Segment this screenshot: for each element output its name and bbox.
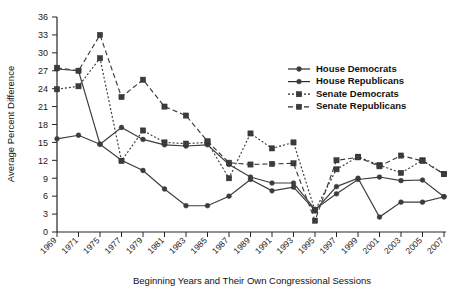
data-point (270, 188, 275, 193)
data-point (269, 161, 274, 166)
legend-label: Senate Republicans (316, 100, 406, 111)
data-point (54, 65, 59, 70)
data-point (162, 140, 167, 145)
chart-legend: House DemocratsHouse RepublicansSenate D… (288, 63, 406, 112)
x-tick-label: 1971 (59, 235, 80, 256)
data-point (183, 113, 188, 118)
data-point (54, 87, 59, 92)
data-point (420, 158, 425, 163)
data-point (141, 168, 146, 173)
data-point (420, 200, 425, 205)
data-point (334, 191, 339, 196)
y-tick-label: 30 (38, 48, 48, 58)
data-point (97, 32, 102, 37)
data-point (141, 137, 146, 142)
data-point (291, 161, 296, 166)
y-axis-title: Average Percent Difference (5, 66, 16, 182)
data-point (183, 141, 188, 146)
data-point (140, 128, 145, 133)
y-tick-label: 15 (38, 138, 48, 148)
data-point (162, 104, 167, 109)
data-point (399, 178, 404, 183)
x-tick-label: 2005 (403, 235, 424, 256)
legend-marker (296, 104, 301, 109)
data-point (184, 203, 189, 208)
data-point (205, 139, 210, 144)
data-point (227, 194, 232, 199)
x-tick-label: 1995 (296, 235, 317, 256)
x-tick-label: 2003 (382, 235, 403, 256)
x-axis-title: Beginning Years and Their Own Congressio… (133, 275, 371, 286)
data-point (269, 146, 274, 151)
data-point (205, 203, 210, 208)
x-tick-label: 1997 (317, 235, 338, 256)
y-tick-label: 27 (38, 66, 48, 76)
x-tick-label: 1987 (210, 235, 231, 256)
y-tick-label: 12 (38, 156, 48, 166)
data-point (98, 142, 103, 147)
series-layer (54, 32, 446, 223)
data-point (291, 140, 296, 145)
y-tick-label: 6 (43, 191, 48, 201)
data-point (356, 176, 361, 181)
x-tick-label: 1999 (339, 235, 360, 256)
x-tick-label: 1979 (124, 235, 145, 256)
x-tick-label: 2007 (425, 235, 446, 256)
x-tick-label: 1985 (188, 235, 209, 256)
legend-label: House Republicans (316, 75, 404, 86)
x-tick-label: 1993 (274, 235, 295, 256)
x-tick-label: 1977 (102, 235, 123, 256)
data-point (441, 171, 446, 176)
data-point (291, 185, 296, 190)
y-tick-label: 24 (38, 84, 48, 94)
data-point (377, 164, 382, 169)
data-point (76, 133, 81, 138)
data-point (312, 208, 317, 213)
x-tick-label: 1989 (231, 235, 252, 256)
legend-marker (297, 67, 302, 72)
x-tick-label: 1969 (38, 235, 59, 256)
data-point (226, 176, 231, 181)
chart-figure: 0369121518212427303336 19691971197519771… (0, 0, 462, 291)
data-point (377, 175, 382, 180)
data-point (355, 155, 360, 160)
legend-label: House Democrats (316, 63, 397, 74)
x-tick-label: 1975 (81, 235, 102, 256)
data-point (248, 177, 253, 182)
y-tick-label: 33 (38, 30, 48, 40)
line-chart: 0369121518212427303336 19691971197519771… (0, 0, 462, 291)
data-point (377, 215, 382, 220)
data-point (334, 167, 339, 172)
x-axis-ticks: 1969197119751977197919811983198519871989… (38, 232, 446, 256)
data-point (248, 131, 253, 136)
data-point (420, 178, 425, 183)
data-point (55, 136, 60, 141)
legend-marker (296, 92, 301, 97)
y-tick-label: 21 (38, 102, 48, 112)
data-point (162, 187, 167, 192)
data-point (334, 184, 339, 189)
series-senate-republicans (54, 32, 446, 223)
y-tick-label: 0 (43, 227, 48, 237)
data-point (399, 200, 404, 205)
y-tick-label: 9 (43, 174, 48, 184)
x-tick-label: 2001 (360, 235, 381, 256)
data-point (76, 84, 81, 89)
data-point (140, 77, 145, 82)
data-point (76, 68, 81, 73)
y-tick-label: 3 (43, 209, 48, 219)
data-point (270, 181, 275, 186)
x-tick-label: 1981 (145, 235, 166, 256)
legend-label: Senate Democrats (316, 88, 399, 99)
data-point (442, 194, 447, 199)
data-point (334, 158, 339, 163)
x-tick-label: 1983 (167, 235, 188, 256)
data-point (398, 170, 403, 175)
data-point (119, 125, 124, 130)
data-point (398, 153, 403, 158)
legend-marker (297, 79, 302, 84)
x-tick-label: 1991 (253, 235, 274, 256)
data-point (248, 162, 253, 167)
data-point (226, 160, 231, 165)
y-tick-label: 36 (38, 12, 48, 22)
